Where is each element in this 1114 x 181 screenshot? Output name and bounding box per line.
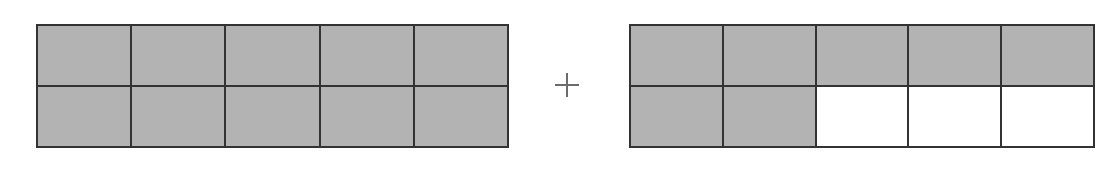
shaded-cell (724, 26, 815, 85)
shaded-cell (724, 87, 815, 146)
shaded-cell (1002, 26, 1093, 85)
plus-sign-icon (555, 73, 579, 97)
unshaded-cell (817, 87, 908, 146)
shaded-cell (909, 26, 1000, 85)
shaded-cell (415, 87, 507, 146)
unshaded-cell (1002, 87, 1093, 146)
shaded-cell (226, 87, 318, 146)
shaded-cell (38, 26, 130, 85)
unshaded-cell (909, 87, 1000, 146)
shaded-cell (817, 26, 908, 85)
shaded-cell (631, 26, 722, 85)
left-area-model (36, 24, 509, 148)
shaded-cell (321, 26, 413, 85)
shaded-cell (226, 26, 318, 85)
shaded-cell (132, 87, 224, 146)
shaded-cell (415, 26, 507, 85)
right-area-model (629, 24, 1095, 148)
shaded-cell (631, 87, 722, 146)
shaded-cell (38, 87, 130, 146)
shaded-cell (132, 26, 224, 85)
shaded-cell (321, 87, 413, 146)
